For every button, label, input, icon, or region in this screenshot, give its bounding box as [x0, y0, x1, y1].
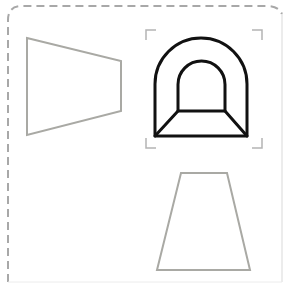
- bottom-trapezoid[interactable]: [157, 173, 250, 270]
- selection-brackets: [146, 30, 262, 148]
- diagram-svg: [0, 0, 284, 283]
- tunnel-floor-right: [225, 111, 247, 136]
- bracket-top-left: [146, 30, 156, 40]
- tunnel-icon[interactable]: [155, 38, 247, 136]
- tunnel-floor-left: [155, 111, 178, 136]
- bracket-bottom-right: [252, 138, 262, 148]
- left-trapezoid[interactable]: [27, 38, 121, 135]
- diagram-canvas: [0, 0, 284, 283]
- bracket-bottom-left: [146, 138, 156, 148]
- tunnel-inner-arch: [178, 61, 225, 111]
- bracket-top-right: [252, 30, 262, 40]
